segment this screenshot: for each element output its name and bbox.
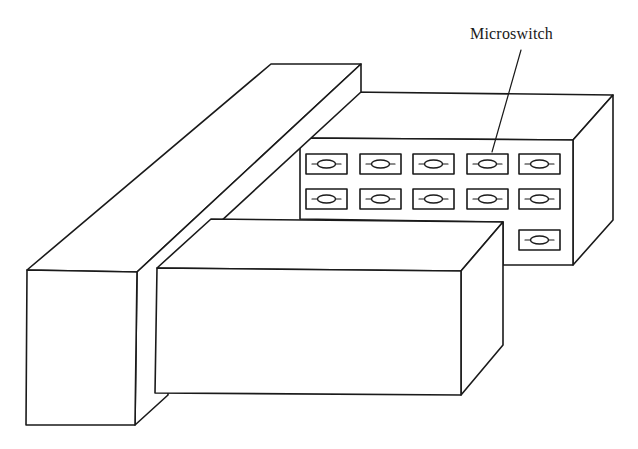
diagram-canvas: [0, 0, 638, 449]
microswitch: [306, 154, 347, 174]
front-box: [155, 219, 503, 395]
front-box-front: [155, 268, 461, 395]
microswitch: [360, 189, 401, 209]
microswitch: [413, 189, 454, 209]
microswitch: [519, 154, 560, 174]
microswitch: [467, 154, 508, 174]
microswitch: [519, 230, 560, 250]
microswitch: [467, 189, 508, 209]
microswitch: [360, 154, 401, 174]
microswitch: [413, 154, 454, 174]
front-box-top: [157, 219, 503, 271]
tall-bar-front: [26, 270, 137, 425]
microswitch-label: Microswitch: [470, 25, 553, 43]
microswitch: [306, 189, 347, 209]
microswitch: [519, 189, 560, 209]
